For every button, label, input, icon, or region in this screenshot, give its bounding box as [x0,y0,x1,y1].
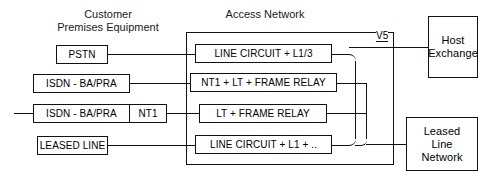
box-pstn[interactable]: PSTN [56,45,108,64]
wire-lt-frame-out [327,113,366,114]
wire-isdn1-to-nt1-lt-frame [130,83,190,84]
elbow-line-circuit-l13 [342,54,356,76]
access-network-title: Access Network [195,8,335,21]
v5-bus-segment-left [355,61,356,139]
wire-nt1-to-lt-frame [167,113,199,114]
box-isdn-ba-pra-upper[interactable]: ISDN - BA/PRA [33,74,130,93]
access-network-diagram: Customer Premises Equipment Access Netwo… [0,0,495,183]
box-leased-line[interactable]: LEASED LINE [37,136,108,155]
wire-pstn-to-line-circuit [108,54,195,55]
v5-interface-label: V5 [376,30,388,42]
wire-leased-line-to-line-circuit [108,145,195,146]
box-nt1-lt-frame-relay[interactable]: NT1 + LT + FRAME RELAY [190,73,337,92]
customer-premises-equipment-title: Customer Premises Equipment [38,8,178,34]
box-line-circuit-l13[interactable]: LINE CIRCUIT + L1/3 [195,44,332,63]
box-leased-line-network[interactable]: Leased Line Network [406,117,478,171]
wire-isdn2-nt1-stub-left [14,113,33,114]
box-line-circuit-l1[interactable]: LINE CIRCUIT + L1 + .. [195,135,332,154]
wire-to-leased-line-network [366,144,406,145]
box-isdn-ba-pra-lower[interactable]: ISDN - BA/PRA [33,104,130,123]
wire-nt1-lt-frame-out [337,83,366,84]
box-host-exchange[interactable]: Host Exchange [428,16,478,78]
wire-v5-to-host-exchange [349,47,428,48]
box-nt1[interactable]: NT1 [129,104,167,123]
elbow-v5-bus-bottom-left [342,132,356,146]
v5-bus-segment-right [366,83,367,139]
box-lt-frame-relay[interactable]: LT + FRAME RELAY [199,104,327,123]
